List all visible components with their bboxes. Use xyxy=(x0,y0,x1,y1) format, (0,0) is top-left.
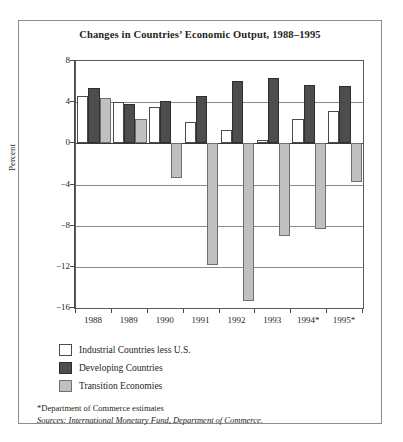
bar-group-1992 xyxy=(220,61,256,308)
y-tick-label--12: −12 xyxy=(40,261,70,271)
x-tick-label-1993: 1993 xyxy=(263,315,281,325)
bar-developing-1995 xyxy=(339,86,350,144)
y-tick-mark-8 xyxy=(70,60,74,61)
x-tick-label-1988: 1988 xyxy=(84,315,102,325)
chart-notes: *Department of Commerce estimates Source… xyxy=(37,402,367,426)
bar-industrial-1992 xyxy=(221,130,232,143)
x-tick-label-1992: 1992 xyxy=(227,315,245,325)
y-tick-label-8: 8 xyxy=(40,55,70,65)
bar-group-1990 xyxy=(148,61,184,308)
plot-area xyxy=(75,60,364,309)
bar-transition-1994 xyxy=(315,143,326,228)
note-sources: Sources: International Monetary Fund, De… xyxy=(37,414,367,426)
bar-industrial-1991 xyxy=(185,122,196,144)
bar-developing-1990 xyxy=(160,101,171,143)
bar-industrial-1994 xyxy=(292,119,303,144)
x-axis: 1988198919901991199219931994*1995* xyxy=(75,309,364,331)
y-axis-title: Percent xyxy=(7,144,17,171)
bar-developing-1988 xyxy=(88,88,99,144)
bar-group-1988 xyxy=(76,61,112,308)
x-tick-label-1991: 1991 xyxy=(192,315,210,325)
y-tick-label-0: 0 xyxy=(40,137,70,147)
legend-label-developing: Developing Countries xyxy=(79,363,163,373)
y-tick-label--4: −4 xyxy=(40,179,70,189)
y-tick-label--16: −16 xyxy=(40,302,70,312)
bar-group-1994 xyxy=(291,61,327,308)
x-tick-label-1995: 1995* xyxy=(333,315,356,325)
legend-item-industrial: Industrial Countries less U.S. xyxy=(59,341,309,359)
legend-swatch-transition xyxy=(59,380,72,392)
legend-swatch-industrial xyxy=(59,344,72,356)
x-tick-mark-1 xyxy=(111,309,112,313)
bar-group-1995 xyxy=(327,61,363,308)
x-tick-label-1989: 1989 xyxy=(120,315,138,325)
y-tick-label--8: −8 xyxy=(40,220,70,230)
x-tick-label-1994: 1994* xyxy=(297,315,320,325)
bar-industrial-1989 xyxy=(113,102,124,143)
legend-swatch-developing xyxy=(59,362,72,374)
x-tick-mark-0 xyxy=(75,309,76,313)
chart-legend: Industrial Countries less U.S.Developing… xyxy=(59,341,309,395)
note-estimates: *Department of Commerce estimates xyxy=(37,402,367,414)
bar-transition-1989 xyxy=(135,119,146,144)
y-tick-mark--12 xyxy=(70,266,74,267)
bar-group-1989 xyxy=(112,61,148,308)
x-tick-mark-6 xyxy=(290,309,291,313)
x-tick-mark-2 xyxy=(147,309,148,313)
y-tick-mark-0 xyxy=(70,142,74,143)
bar-developing-1991 xyxy=(196,96,207,143)
bar-transition-1995 xyxy=(351,143,362,182)
x-tick-mark-5 xyxy=(254,309,255,313)
y-tick-mark--8 xyxy=(70,225,74,226)
legend-item-developing: Developing Countries xyxy=(59,359,309,377)
bar-transition-1990 xyxy=(171,143,182,178)
bar-developing-1993 xyxy=(268,78,279,143)
chart-title: Changes in Countries’ Economic Output, 1… xyxy=(19,29,381,40)
x-tick-label-1990: 1990 xyxy=(156,315,174,325)
bar-industrial-1995 xyxy=(328,111,339,143)
legend-label-industrial: Industrial Countries less U.S. xyxy=(79,345,191,355)
bar-transition-1993 xyxy=(279,143,290,236)
bar-developing-1992 xyxy=(232,81,243,144)
bar-developing-1994 xyxy=(304,85,315,144)
legend-label-transition: Transition Economies xyxy=(79,381,162,391)
bar-industrial-1990 xyxy=(149,107,160,143)
bar-industrial-1993 xyxy=(257,140,268,143)
x-tick-mark-8 xyxy=(362,309,363,313)
bar-industrial-1988 xyxy=(77,96,88,143)
bar-transition-1988 xyxy=(100,98,111,143)
x-tick-mark-3 xyxy=(183,309,184,313)
legend-item-transition: Transition Economies xyxy=(59,377,309,395)
bar-developing-1989 xyxy=(124,104,135,143)
figure-panel: Changes in Countries’ Economic Output, 1… xyxy=(18,20,382,424)
y-tick-mark--16 xyxy=(70,307,74,308)
bar-transition-1992 xyxy=(243,143,254,300)
bar-group-1991 xyxy=(184,61,220,308)
y-axis-tick-labels: 840−4−8−12−16 xyxy=(34,60,70,309)
x-tick-mark-7 xyxy=(326,309,327,313)
x-tick-mark-4 xyxy=(219,309,220,313)
y-tick-mark--4 xyxy=(70,184,74,185)
y-tick-label-4: 4 xyxy=(40,96,70,106)
y-tick-mark-4 xyxy=(70,101,74,102)
bar-transition-1991 xyxy=(207,143,218,264)
bar-group-1993 xyxy=(255,61,291,308)
